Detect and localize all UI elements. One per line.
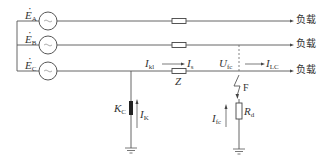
arrow-a-icon [290,20,294,23]
ikl-label: Ikl [145,58,154,71]
arc-suppression-coil-icon [129,101,133,115]
fault-resistor-icon [236,103,242,119]
current-is-arrow-icon [181,63,185,66]
phase-b-line [17,36,294,54]
load-b-label: 负载 [296,39,316,49]
source-b-label: EB [25,34,36,47]
ground-kc-icon [125,148,137,153]
arc-suppression-branch [125,71,139,153]
is-label: Is [187,58,193,71]
ik-label: IK [140,109,149,122]
ilc-label: ILC [266,58,279,71]
current-ilc-arrow-icon [261,63,265,66]
source-a-label: EA [25,10,37,23]
impedance-a-icon [172,19,186,24]
z-label: Z [175,76,181,87]
impedance-z-icon [172,69,186,74]
load-c-label: 负载 [296,65,316,75]
circuit-diagram [0,0,326,168]
fault-f-label: F [243,83,249,93]
fault-lightning-icon [234,75,240,96]
ground-fault-icon [233,149,245,154]
load-a-label: 负载 [296,15,316,25]
rd-label: Rd [244,106,254,119]
kc-label: KC [114,103,126,116]
source-c-label: EC [25,60,36,73]
phase-c-line [17,62,294,80]
arrow-c-icon [290,70,294,73]
current-ifc-arrow-icon [225,104,228,109]
ufc-label: Ufc [219,58,232,71]
fault-branch [225,75,246,154]
phase-a-line [17,12,294,30]
ifc-label: Ifc [212,113,221,126]
arrow-b-icon [290,44,294,47]
current-ik-arrow-icon [136,99,139,104]
impedance-b-icon [172,43,186,48]
